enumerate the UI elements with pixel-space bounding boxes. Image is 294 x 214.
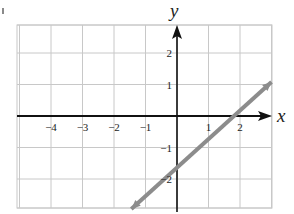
y-tick-label: −2 xyxy=(160,173,172,185)
x-tick-label: −2 xyxy=(108,121,120,133)
y-tick-label: 2 xyxy=(167,47,173,59)
x-tick-label: 1 xyxy=(206,121,212,133)
x-tick-label: 2 xyxy=(237,121,243,133)
y-axis-label: y xyxy=(168,0,179,21)
data-line xyxy=(131,82,271,209)
chart: −4−3−2−11221−1−2 x y xyxy=(0,0,294,214)
x-tick-label: −3 xyxy=(77,121,89,133)
x-axis-label: x xyxy=(276,105,286,126)
x-tick-label: −4 xyxy=(45,121,57,133)
y-tick-label: 1 xyxy=(167,79,173,91)
x-tick-label: −1 xyxy=(140,121,152,133)
y-tick-label: −1 xyxy=(160,142,172,154)
